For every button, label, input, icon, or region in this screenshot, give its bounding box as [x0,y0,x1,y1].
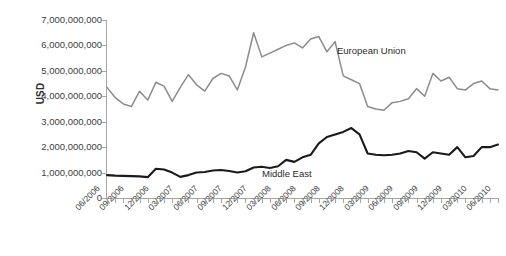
x-tick-label: 06/2010 [464,183,493,212]
x-tick-mark [311,199,312,203]
x-tick-mark [425,199,426,203]
y-tick-mark [102,122,107,123]
x-tick-mark [474,199,475,203]
x-tick-mark [115,199,116,203]
x-tick-mark [278,199,279,203]
x-tick-mark [213,199,214,203]
x-tick-mark [457,199,458,203]
x-tick-mark [327,199,328,203]
x-tick-label: 06/2009 [366,183,395,212]
x-tick-mark [408,199,409,203]
x-tick-mark [335,199,336,203]
x-tick-mark [164,199,165,203]
x-tick-label: 12/2008 [317,183,346,212]
y-tick-mark [102,147,107,148]
x-tick-mark [180,199,181,203]
x-tick-mark [482,199,483,203]
x-tick-mark [107,199,108,203]
x-tick-mark [237,199,238,203]
x-tick-mark [140,199,141,203]
x-tick-label: 06/2006 [73,183,102,212]
x-tick-mark [360,199,361,203]
x-tick-label: 03/2007 [146,183,175,212]
x-tick-mark [270,199,271,203]
x-tick-mark [351,199,352,203]
x-tick-mark [131,199,132,203]
x-tick-mark [245,199,246,203]
x-tick-mark [384,199,385,203]
y-tick-mark [102,20,107,21]
series-label-middle-east: Middle East [262,168,312,179]
x-tick-mark [229,199,230,203]
x-tick-label: 09/2009 [391,183,420,212]
x-tick-label: 03/2008 [244,183,273,212]
x-tick-label: 12/2007 [220,183,249,212]
x-tick-mark [123,199,124,203]
x-tick-mark [400,199,401,203]
x-tick-label: 09/2008 [293,183,322,212]
x-tick-mark [498,199,499,203]
x-tick-mark [294,199,295,203]
x-tick-mark [465,199,466,203]
y-tick-mark [102,96,107,97]
x-tick-mark [254,199,255,203]
x-tick-label: 03/2009 [342,183,371,212]
x-tick-mark [205,199,206,203]
x-tick-mark [417,199,418,203]
x-tick-mark [286,199,287,203]
x-tick-mark [343,199,344,203]
x-tick-label: 12/2009 [415,183,444,212]
x-tick-mark [319,199,320,203]
x-tick-mark [392,199,393,203]
x-tick-label: 12/2006 [122,183,151,212]
x-tick-mark [262,199,263,203]
x-tick-mark [490,199,491,203]
x-tick-label: 03/2010 [440,183,469,212]
x-tick-mark [148,199,149,203]
x-tick-mark [303,199,304,203]
x-tick-mark [441,199,442,203]
x-tick-mark [433,199,434,203]
x-tick-label: 06/2008 [269,183,298,212]
x-tick-mark [156,199,157,203]
x-tick-label: 09/2007 [195,183,224,212]
line-chart: USD 7,000,000,0006,000,000,0005,000,000,… [0,0,506,256]
y-tick-mark [102,173,107,174]
x-tick-mark [368,199,369,203]
x-tick-label: 06/2007 [171,183,200,212]
x-tick-mark [172,199,173,203]
y-tick-mark [102,45,107,46]
x-tick-mark [188,199,189,203]
series-label-european-union: European Union [337,45,406,56]
x-tick-mark [197,199,198,203]
x-tick-mark [376,199,377,203]
x-tick-mark [221,199,222,203]
x-axis-tick-labels: 06/200609/200612/200603/200706/200709/20… [0,0,506,256]
y-tick-mark [102,71,107,72]
x-tick-mark [449,199,450,203]
